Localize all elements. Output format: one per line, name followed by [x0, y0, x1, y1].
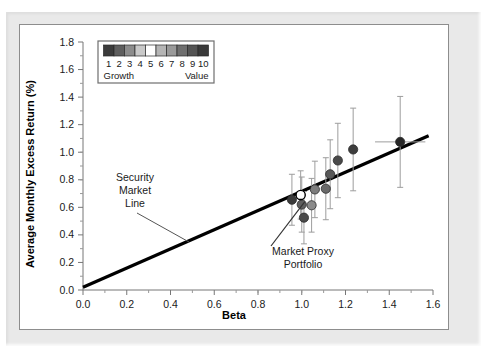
x-tick-label: 1.0 — [294, 298, 309, 310]
security-market-line-path — [83, 136, 429, 288]
legend-swatch — [135, 45, 146, 56]
legend-decile-number: 5 — [148, 58, 153, 69]
decile-point-marker[interactable] — [349, 145, 358, 154]
y-tick-label: 1.2 — [59, 118, 74, 130]
decile-point-marker[interactable] — [287, 195, 296, 204]
decile-point-marker[interactable] — [326, 170, 335, 179]
legend-swatch — [125, 45, 136, 56]
data-points-layer[interactable] — [287, 137, 404, 222]
y-tick-label: 0.4 — [59, 228, 74, 240]
x-tick-label: 0.4 — [163, 298, 178, 310]
y-axis-title: Average Monthly Excess Return (%) — [24, 80, 36, 268]
legend-swatch — [114, 45, 125, 56]
x-tick-label: 0.0 — [76, 298, 91, 310]
legend-decile-number: 6 — [159, 58, 164, 69]
error-bars-layer — [289, 96, 425, 243]
legend-growth-label: Growth — [104, 70, 135, 81]
decile-point-marker[interactable] — [297, 200, 306, 209]
legend-swatch — [146, 45, 157, 56]
legend-decile-number: 9 — [190, 58, 195, 69]
decile-point-marker[interactable] — [299, 213, 308, 222]
legend-decile-number: 2 — [117, 58, 122, 69]
security-market-line-label-line: Security — [116, 171, 155, 183]
legend-swatch — [188, 45, 199, 56]
decile-point-marker[interactable] — [310, 185, 319, 194]
legend-decile-number: 4 — [138, 58, 143, 69]
security-market-line-label-line: Line — [125, 197, 145, 209]
y-tick-label: 0.8 — [59, 173, 74, 185]
y-tick-label: 0.6 — [59, 201, 74, 213]
decile-point-marker[interactable] — [321, 184, 330, 193]
figure-page: 0.00.20.40.60.81.01.21.41.61.80.00.20.40… — [0, 0, 487, 358]
scatter-chart: 0.00.20.40.60.81.01.21.41.61.80.00.20.40… — [19, 24, 449, 330]
x-tick-label: 1.6 — [426, 298, 441, 310]
legend-value-label: Value — [185, 70, 209, 81]
market-proxy-portfolio-leader — [271, 202, 305, 246]
market-proxy-portfolio-label-line: Market Proxy — [272, 245, 335, 257]
x-tick-label: 0.6 — [207, 298, 222, 310]
security-market-line — [83, 136, 429, 288]
x-tick-label: 1.2 — [338, 298, 353, 310]
security-market-line-leader — [137, 213, 189, 242]
y-tick-label: 0.0 — [59, 284, 74, 296]
x-axis-title: Beta — [222, 309, 247, 321]
decile-point-marker[interactable] — [307, 201, 316, 210]
decile-point-marker[interactable] — [333, 156, 342, 165]
legend-swatch — [104, 45, 115, 56]
y-tick-label: 1.6 — [59, 63, 74, 75]
legend-layer: 12345678910GrowthValue — [98, 41, 214, 83]
legend-swatch — [156, 45, 167, 56]
decile-point-marker[interactable] — [396, 137, 405, 146]
legend-decile-number: 7 — [169, 58, 174, 69]
legend-decile-number: 8 — [180, 58, 185, 69]
x-tick-label: 0.2 — [119, 298, 134, 310]
legend-decile-number: 3 — [127, 58, 132, 69]
legend-decile-number: 1 — [106, 58, 111, 69]
y-tick-label: 1.8 — [59, 36, 74, 48]
legend-swatch — [167, 45, 178, 56]
market-proxy-portfolio-marker[interactable] — [296, 190, 305, 199]
x-tick-label: 1.4 — [382, 298, 397, 310]
legend-swatch — [198, 45, 209, 56]
y-tick-label: 1.0 — [59, 146, 74, 158]
security-market-line-label-line: Market — [119, 184, 151, 196]
market-proxy-portfolio-label-line: Portfolio — [284, 258, 323, 270]
legend-swatch — [177, 45, 188, 56]
legend-decile-number: 10 — [198, 58, 209, 69]
y-tick-label: 0.2 — [59, 256, 74, 268]
y-tick-label: 1.4 — [59, 91, 74, 103]
x-tick-label: 0.8 — [251, 298, 266, 310]
